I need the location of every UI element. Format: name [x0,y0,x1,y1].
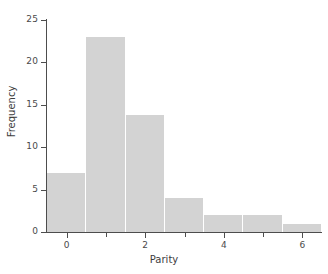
x-tick-label: 2 [130,241,160,250]
y-tick-mark [41,20,46,21]
y-tick-label: 10 [8,142,38,151]
x-tick-mark [224,233,225,238]
y-tick-label: 15 [8,100,38,109]
figure-top-margin [0,0,328,4]
histogram-bar [165,198,203,232]
y-tick-label: 25 [8,15,38,24]
histogram-bar [86,37,124,232]
x-minor-tick-mark [263,233,264,237]
x-tick-mark [302,233,303,238]
x-tick-label: 6 [287,241,317,250]
plot-area [47,20,322,232]
x-tick-label: 0 [52,241,82,250]
y-tick-mark [41,147,46,148]
y-tick-mark [41,190,46,191]
y-tick-label: 5 [8,185,38,194]
histogram-bar [283,224,321,232]
x-axis-title: Parity [0,254,328,265]
x-tick-label: 4 [209,241,239,250]
x-minor-tick-mark [185,233,186,237]
histogram-bar [47,173,85,232]
histogram-figure: Frequency 0510152025 0246 Parity [0,0,328,274]
y-tick-label: 0 [8,227,38,236]
y-tick-mark [41,232,46,233]
histogram-bar [126,115,164,232]
x-tick-mark [145,233,146,238]
y-tick-label: 20 [8,57,38,66]
y-axis-title: Frequency [6,72,17,152]
histogram-bar [204,215,242,232]
x-tick-mark [67,233,68,238]
y-tick-mark [41,62,46,63]
histogram-bar [243,215,281,232]
x-minor-tick-mark [106,233,107,237]
y-tick-mark [41,105,46,106]
